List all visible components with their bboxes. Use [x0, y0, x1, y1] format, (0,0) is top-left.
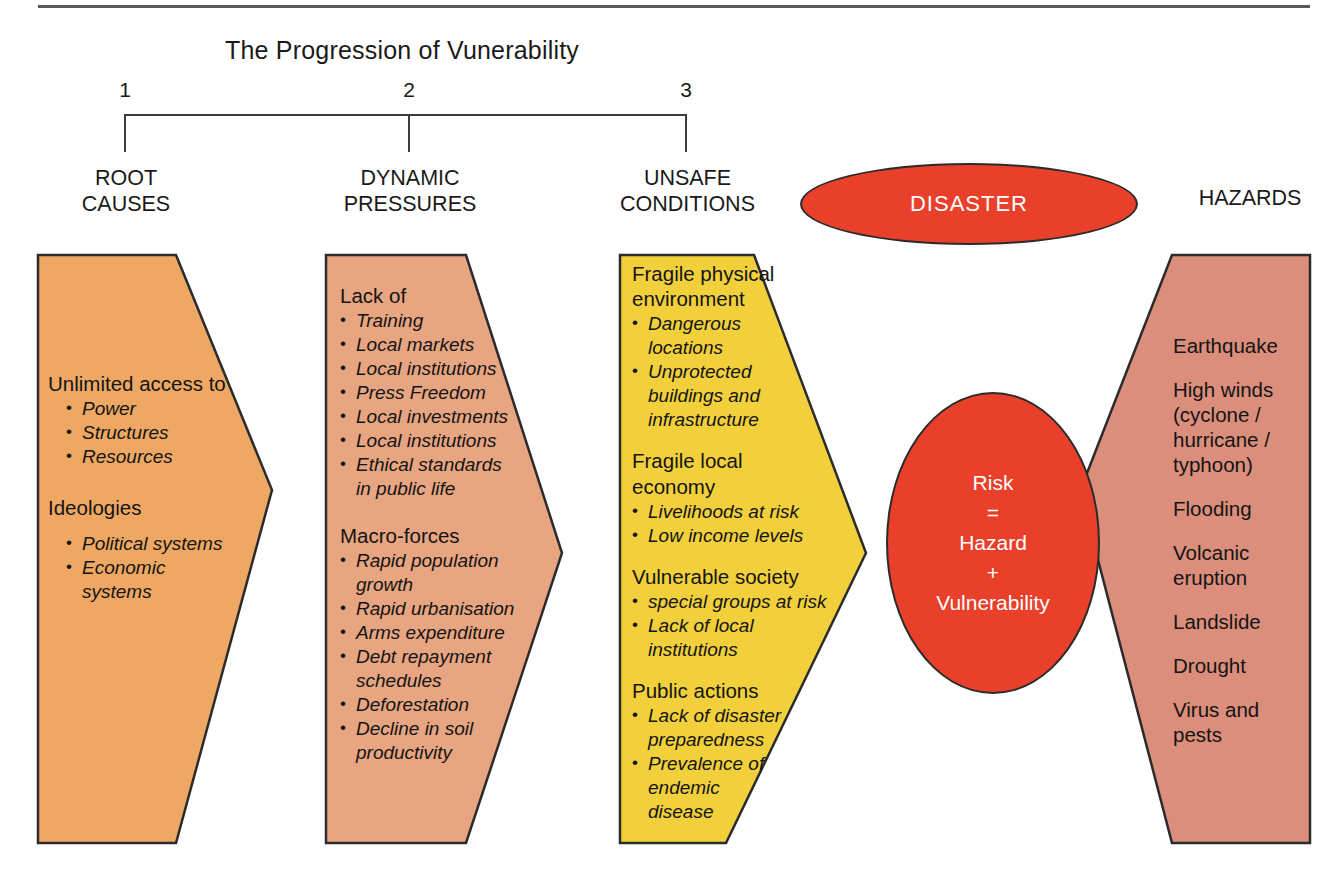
list-item: Structures — [48, 421, 238, 445]
list-item: Livelihoods at risk — [632, 500, 847, 524]
shape-root-causes: Unlimited access to Power Structures Res… — [36, 253, 276, 845]
block-title: Lack of — [340, 283, 540, 308]
list-item: Local institutions — [340, 429, 540, 453]
text-block: Vulnerable society special groups at ris… — [632, 564, 847, 662]
text-block: Lack of Training Local markets Local ins… — [340, 283, 540, 501]
list-item: Press Freedom — [340, 381, 540, 405]
list-item: Rapid population — [340, 549, 540, 573]
block-list: Livelihoods at risk Low income levels — [632, 500, 847, 548]
disaster-ellipse: DISASTER — [800, 163, 1138, 245]
list-item: Unprotected — [632, 360, 847, 384]
page-title: The Progression of Vunerability — [225, 36, 579, 65]
block-list: special groups at risk Lack of local ins… — [632, 590, 847, 662]
text-block: Public actions Lack of disaster prepared… — [632, 678, 847, 824]
column-head-hazards: HAZARDS — [1160, 185, 1340, 211]
list-item: Local markets — [340, 333, 540, 357]
risk-formula-label: Risk = Hazard + Vulnerability — [936, 468, 1050, 618]
text-block: Unlimited access to Power Structures Res… — [48, 371, 238, 469]
bracket-tick-1 — [124, 114, 126, 152]
list-item: Lack of local — [632, 614, 847, 638]
list-item: Economic systems — [48, 556, 238, 604]
list-item: Lack of disaster — [632, 704, 847, 728]
list-item: Prevalence of — [632, 752, 847, 776]
bracket-tick-3 — [685, 114, 687, 152]
list-item-continuation: preparedness — [632, 728, 847, 752]
bracket-horizontal-line — [124, 114, 687, 116]
list-item: Volcanic eruption — [1173, 540, 1313, 590]
disaster-label: DISASTER — [910, 191, 1028, 217]
list-item: Resources — [48, 445, 238, 469]
list-item-continuation: buildings and — [632, 384, 847, 408]
column-head-unsafe-conditions: UNSAFE CONDITIONS — [585, 165, 790, 217]
text-block: Ideologies Political systems Economic sy… — [48, 495, 238, 604]
shape-unsafe-conditions: Fragile physical environment Dangerous l… — [618, 253, 868, 845]
list-item: Local institutions — [340, 357, 540, 381]
block-title: Fragile physical environment — [632, 261, 847, 311]
column-head-dynamic-pressures: DYNAMIC PRESSURES — [305, 165, 515, 217]
list-item-continuation: infrastructure — [632, 408, 847, 432]
list-item-continuation: schedules — [340, 669, 540, 693]
list-item: Power — [48, 397, 238, 421]
bracket-number-3: 3 — [666, 78, 706, 102]
list-item: Training — [340, 309, 540, 333]
bracket-number-2: 2 — [389, 78, 429, 102]
top-divider-rule — [38, 5, 1310, 8]
list-item: Deforestation — [340, 693, 540, 717]
list-item: special groups at risk — [632, 590, 847, 614]
list-item: Virus and pests — [1173, 697, 1313, 747]
list-item-continuation: locations — [632, 336, 847, 360]
block-title: Ideologies — [48, 495, 238, 520]
block-title: Public actions — [632, 678, 847, 703]
block-list: Training Local markets Local institution… — [340, 309, 540, 501]
list-item: Low income levels — [632, 524, 847, 548]
block-list: Lack of disaster preparedness Prevalence… — [632, 704, 847, 824]
list-item: Dangerous — [632, 312, 847, 336]
list-item: Arms expenditure — [340, 621, 540, 645]
list-item-continuation: growth — [340, 573, 540, 597]
block-title: Fragile local — [632, 448, 847, 473]
list-item-continuation: productivity — [340, 741, 540, 765]
text-block: Fragile local economy Livelihoods at ris… — [632, 448, 847, 548]
list-item-continuation: in public life — [340, 477, 540, 501]
block-list: Power Structures Resources — [48, 397, 238, 469]
list-item: High winds (cyclone / hurricane / typhoo… — [1173, 377, 1313, 477]
list-item: Debt repayment — [340, 645, 540, 669]
block-title: Vulnerable society — [632, 564, 847, 589]
list-item-continuation: disease — [632, 800, 847, 824]
list-item: Landslide — [1173, 609, 1313, 634]
bracket-number-1: 1 — [105, 78, 145, 102]
block-title: Macro-forces — [340, 523, 540, 548]
shape-dynamic-pressures: Lack of Training Local markets Local ins… — [324, 253, 564, 845]
list-item: Rapid urbanisation — [340, 597, 540, 621]
list-item: Earthquake — [1173, 333, 1313, 358]
list-item: Decline in soil — [340, 717, 540, 741]
shape-hazards: Earthquake High winds (cyclone / hurrica… — [1078, 253, 1312, 845]
diagram-canvas: The Progression of Vunerability 1 2 3 RO… — [0, 0, 1340, 872]
list-item: Flooding — [1173, 496, 1313, 521]
block-list: Political systems Economic systems — [48, 532, 238, 604]
block-title-line2: economy — [632, 474, 847, 499]
list-item-continuation: institutions — [632, 638, 847, 662]
text-block: Fragile physical environment Dangerous l… — [632, 261, 847, 432]
bracket-tick-2 — [408, 114, 410, 152]
block-list: Dangerous locations Unprotected building… — [632, 312, 847, 432]
block-title: Unlimited access to — [48, 371, 238, 396]
column-head-root-causes: ROOT CAUSES — [26, 165, 226, 217]
hazards-list: Earthquake High winds (cyclone / hurrica… — [1173, 333, 1313, 747]
list-item-continuation: endemic — [632, 776, 847, 800]
text-block: Macro-forces Rapid population growth Rap… — [340, 523, 540, 765]
list-item: Drought — [1173, 653, 1313, 678]
list-item: Ethical standards — [340, 453, 540, 477]
list-item: Political systems — [48, 532, 238, 556]
risk-ellipse: Risk = Hazard + Vulnerability — [886, 392, 1100, 694]
block-list: Rapid population growth Rapid urbanisati… — [340, 549, 540, 765]
list-item: Local investments — [340, 405, 540, 429]
